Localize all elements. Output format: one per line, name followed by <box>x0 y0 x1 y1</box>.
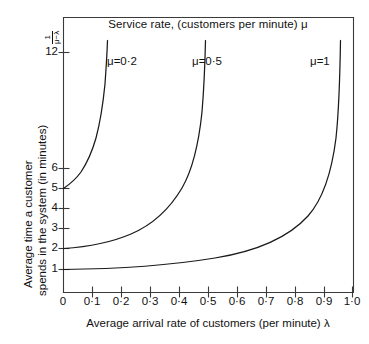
curve-mu-0-5 <box>64 41 206 249</box>
curves-group <box>64 41 341 270</box>
curve-mu-0-2 <box>64 41 108 189</box>
plot-area <box>0 0 369 344</box>
chart-figure: 1 μ−λ Service rate, (customers per minut… <box>0 0 369 344</box>
